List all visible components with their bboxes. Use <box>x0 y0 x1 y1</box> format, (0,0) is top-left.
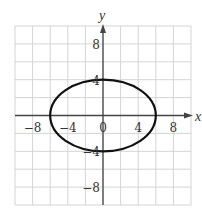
x-tick-label: 0 <box>99 121 107 135</box>
y-tick-label: 8 <box>92 38 100 52</box>
x-tick-label: 8 <box>170 121 178 135</box>
x-tick-label: −8 <box>24 121 42 135</box>
x-axis-arrow-icon <box>184 113 193 119</box>
y-tick-label: −8 <box>82 181 100 195</box>
ellipse-chart: xy−8−404884−4−8 <box>0 0 202 209</box>
y-axis-arrow-icon <box>100 24 106 33</box>
axes <box>15 24 193 205</box>
x-tick-label: 4 <box>134 121 142 135</box>
x-tick-label: −4 <box>59 121 77 135</box>
x-axis-label: x <box>194 109 202 124</box>
y-tick-label: −4 <box>82 145 100 159</box>
y-tick-label: 4 <box>92 74 100 88</box>
y-axis-label: y <box>97 8 106 23</box>
